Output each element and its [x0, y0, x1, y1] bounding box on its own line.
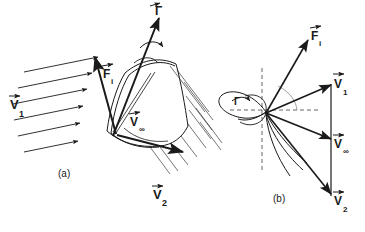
wake-hatching-a	[150, 66, 222, 174]
label-v2-a: V 2	[152, 186, 167, 208]
svg-text:Γ: Γ	[155, 4, 163, 18]
v2-glyph-b: V	[334, 194, 342, 208]
v1-subscript-b: 1	[343, 88, 348, 97]
svg-text:Γ: Γ	[234, 96, 240, 107]
svg-text:V: V	[334, 77, 342, 91]
svg-text:∞: ∞	[139, 125, 145, 134]
vinf-subscript-a: ∞	[139, 125, 145, 134]
label-v1-a: V 1	[9, 96, 24, 119]
svg-text:F: F	[103, 67, 110, 81]
gamma-glyph-a: Γ	[155, 4, 163, 18]
fi-glyph-a: F	[103, 67, 110, 81]
aerodynamics-diagram: V 1	[0, 0, 365, 232]
blade-surface-a	[107, 60, 188, 148]
v1-glyph-b: V	[334, 77, 342, 91]
panel-b: Γ F i V 1 V	[219, 26, 349, 214]
svg-text:∞: ∞	[343, 147, 349, 156]
v2-subscript-b: 2	[343, 205, 348, 214]
v1-glyph-a: V	[10, 97, 19, 112]
svg-text:i: i	[111, 77, 113, 86]
vector-fi-a: F i	[95, 57, 116, 134]
svg-text:1: 1	[343, 88, 348, 97]
inflow-streamlines-a	[13, 57, 98, 152]
v2-subscript-a: 2	[162, 198, 167, 208]
vinf-glyph-a: V	[130, 115, 138, 129]
airfoil-section-b	[219, 92, 266, 120]
v1-subscript-a: 1	[19, 109, 24, 119]
vinf-glyph-b: V	[334, 137, 342, 151]
svg-text:2: 2	[162, 198, 167, 208]
panel-a: V 1	[9, 3, 222, 208]
vector-vinf-b: V ∞	[266, 113, 349, 156]
vector-v1-b: V 1	[266, 74, 348, 113]
svg-text:i: i	[319, 39, 321, 48]
panel-a-caption: (a)	[58, 168, 70, 179]
fi-subscript-a: i	[111, 77, 113, 86]
svg-text:V: V	[334, 194, 342, 208]
svg-text:V: V	[153, 187, 162, 202]
fi-subscript-b: i	[319, 39, 321, 48]
figure-container: V 1	[0, 0, 365, 232]
fi-glyph-b: F	[311, 29, 318, 43]
svg-text:2: 2	[343, 205, 348, 214]
gamma-glyph-b: Γ	[234, 96, 240, 107]
svg-text:F: F	[311, 29, 318, 43]
vinf-subscript-b: ∞	[343, 147, 349, 156]
airfoil-tail-b	[266, 113, 307, 176]
svg-text:V: V	[334, 137, 342, 151]
panel-b-caption: (b)	[273, 193, 285, 204]
svg-text:V: V	[10, 97, 19, 112]
v2-glyph-a: V	[153, 187, 162, 202]
svg-text:V: V	[130, 115, 138, 129]
svg-text:1: 1	[19, 109, 24, 119]
